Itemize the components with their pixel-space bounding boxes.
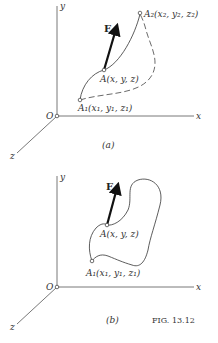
force-label: F (106, 181, 113, 192)
z-axis-label: z (9, 322, 15, 332)
point-a (102, 68, 106, 72)
z-axis (17, 116, 57, 153)
z-axis-label: z (9, 151, 15, 161)
point-a-label: A(x, y, z) (99, 74, 139, 84)
x-axis-label: x (196, 111, 201, 121)
origin-label: O (46, 282, 54, 292)
path-dashed (80, 14, 155, 100)
x-axis-label: x (196, 282, 201, 292)
figure-label: FIG. 13.12 (152, 316, 195, 325)
point-a2-label: A₂(x₂, y₂, z₂) (143, 9, 199, 19)
origin-marker (55, 114, 59, 118)
point-a-label: A(x, y, z) (99, 229, 139, 239)
point-a1-label: A₁(x₁, y₁, z₁) (85, 268, 141, 278)
path-closed (89, 179, 161, 266)
panel-b: y x z O F A(x, y, z) A₁(x₁, y₁, z₁) (b) (9, 172, 201, 332)
y-axis-label: y (59, 172, 66, 182)
force-vector (104, 29, 116, 70)
origin-marker (55, 285, 59, 289)
point-a1 (90, 259, 94, 263)
force-label: F (104, 23, 111, 34)
panel-a: y x z O F A(x, y, z) A₁(x₁, y₁, z₁) A₂(x… (9, 1, 201, 161)
point-a2 (138, 11, 142, 15)
panel-a-caption: (a) (102, 140, 115, 150)
figure-13-12: y x z O F A(x, y, z) A₁(x₁, y₁, z₁) A₂(x… (0, 0, 218, 343)
point-a1 (78, 98, 82, 102)
panel-b-caption: (b) (106, 315, 119, 325)
point-a1-label: A₁(x₁, y₁, z₁) (77, 103, 133, 113)
point-a (105, 223, 109, 227)
y-axis-label: y (59, 1, 66, 11)
force-vector (107, 188, 117, 225)
origin-label: O (46, 111, 54, 121)
z-axis (17, 287, 57, 324)
